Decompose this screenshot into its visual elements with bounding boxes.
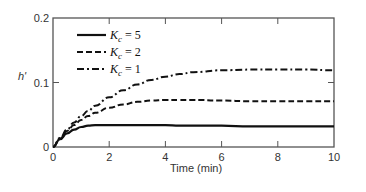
- legend-label-kc1: Kc = 1: [109, 62, 141, 78]
- legend-label-kc2: Kc = 2: [109, 45, 141, 61]
- y-tick-label: 0: [43, 141, 49, 153]
- series-line-solid: [53, 125, 334, 147]
- axes-frame: [53, 18, 334, 147]
- legend-label-kc5: Kc = 5: [109, 28, 141, 44]
- plot-border: [53, 18, 334, 147]
- y-tick-label: 0.2: [34, 12, 49, 24]
- line-chart: 024681000.10.2 h' Time (min) Kc = 5 Kc =…: [0, 0, 366, 192]
- x-tick-label: 10: [328, 151, 340, 163]
- y-axis-label: h': [18, 70, 27, 82]
- legend: Kc = 5 Kc = 2 Kc = 1: [77, 28, 141, 78]
- x-tick-label: 4: [162, 151, 168, 163]
- x-axis-label: Time (min): [170, 162, 222, 174]
- x-tick-label: 8: [275, 151, 281, 163]
- data-lines: [53, 70, 334, 147]
- y-tick-label: 0.1: [34, 77, 49, 89]
- x-tick-label: 0: [50, 151, 56, 163]
- series-line-dashed: [53, 100, 334, 147]
- x-tick-label: 2: [106, 151, 112, 163]
- series-line-dashdot: [53, 70, 334, 147]
